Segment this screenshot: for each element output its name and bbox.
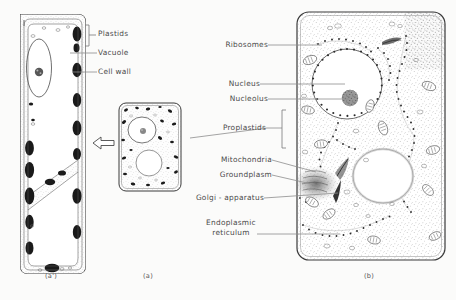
nucleolus-a [140, 128, 146, 134]
vacuole-b [353, 149, 413, 203]
label-proplastids: Proplastids [186, 123, 266, 133]
cell-b [294, 12, 445, 260]
label-golgi-apparatus: Golgi - apparatus [152, 193, 264, 203]
figure-canvas: Plastids Vacuole Cell wall Ribosomes Nuc… [0, 0, 456, 300]
nucleolus-b [342, 90, 358, 106]
nucleolus-a-prime [35, 68, 43, 76]
label-nucleus: Nucleus [160, 79, 260, 89]
label-nucleolus: Nucleolus [168, 94, 268, 104]
caption-panel-a: (a) [143, 272, 153, 280]
bracket-proplastids [282, 110, 286, 148]
label-groundplasm: Groundplasm [172, 170, 272, 180]
label-endoplasmic-reticulum-line1: Endoplasmic [201, 218, 261, 228]
label-endoplasmic-reticulum-line2: reticulum [201, 228, 261, 238]
caption-panel-a-prime: (a') [45, 272, 57, 280]
label-cell-wall: Cell wall [98, 67, 131, 77]
label-vacuole: Vacuole [98, 48, 129, 58]
label-endoplasmic-reticulum: Endoplasmic reticulum [201, 218, 261, 237]
development-arrow [93, 137, 114, 149]
label-mitochondria: Mitochondria [172, 155, 272, 165]
caption-panel-b: (b) [364, 272, 374, 280]
bracket-plastids [85, 25, 96, 46]
label-ribosomes: Ribosomes [168, 40, 268, 50]
label-plastids: Plastids [98, 29, 128, 39]
